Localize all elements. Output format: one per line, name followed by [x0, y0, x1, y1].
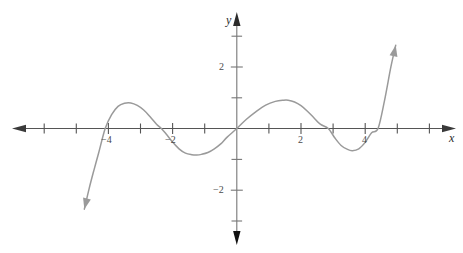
y-axis-label: y: [226, 13, 231, 28]
x-tick-label-neg4: −4: [101, 134, 112, 145]
x-axis-label: x: [449, 131, 454, 146]
graph-figure: y x −4 −2 2 4 2 −2: [0, 0, 463, 253]
curve-series: [83, 45, 397, 209]
x-tick-label-pos2: 2: [298, 134, 303, 145]
y-tick-label-neg2: −2: [213, 184, 224, 195]
curve-start-arrowhead: [83, 198, 91, 210]
function-curve: [84, 45, 395, 209]
coordinate-plane: [0, 0, 463, 253]
y-tick-label-pos2: 2: [219, 61, 224, 72]
x-axis-left-arrowhead: [12, 125, 26, 132]
x-tick-label-pos4: 4: [362, 134, 367, 145]
y-axis-up-arrowhead: [233, 12, 240, 26]
x-tick-label-neg2: −2: [165, 134, 176, 145]
y-axis-down-arrowhead: [233, 231, 240, 245]
x-axis: [12, 123, 456, 134]
curve-end-arrowhead: [390, 45, 398, 57]
